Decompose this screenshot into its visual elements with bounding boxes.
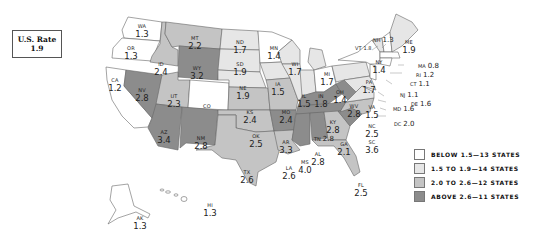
legend-item-high: ABOVE 2.6—11 STATES [414, 189, 520, 203]
label-ks: KS2.4 [243, 110, 257, 125]
us-rate-title: U.S. Rate [13, 35, 61, 44]
label-co: CO [203, 104, 211, 110]
label-al: AL2.8 [311, 152, 325, 167]
label-wy: WY3.2 [190, 66, 204, 81]
label-va: VA1.5 [365, 105, 379, 120]
legend-swatch [414, 149, 425, 160]
label-wa: WA1.3 [135, 24, 149, 39]
legend-swatch [414, 191, 425, 202]
label-la: LA2.6 [282, 166, 296, 181]
label-nm: NM2.8 [194, 136, 208, 151]
label-nd: ND1.7 [233, 40, 247, 55]
label-hi: HI1.3 [203, 203, 217, 218]
label-mt: MT2.2 [188, 36, 202, 51]
label-nh: NH1.3 [373, 37, 394, 44]
label-ok: OK2.5 [249, 134, 263, 149]
label-il: IL1.5 [297, 94, 311, 109]
label-ky: KY2.8 [326, 120, 340, 135]
label-wv: WV2.8 [347, 104, 361, 119]
label-ut: UT2.3 [167, 94, 181, 109]
legend-swatch [414, 163, 425, 174]
label-in: IN1.8 [314, 94, 328, 109]
label-tn: TN2.8 [314, 136, 334, 143]
legend-item-low: 1.5 TO 1.9—14 STATES [414, 161, 520, 175]
label-ak: AK1.3 [133, 216, 147, 231]
legend-item-below: BELOW 1.5—13 STATES [414, 147, 520, 161]
label-ma: MA0.8 [418, 63, 439, 70]
legend-swatch [414, 177, 425, 188]
label-me: ME1.9 [402, 40, 416, 55]
label-or: OR1.3 [124, 46, 138, 61]
label-ms: MS4.0 [298, 160, 312, 175]
label-nc: NC2.5 [365, 124, 379, 139]
label-wi: WI1.7 [288, 62, 302, 77]
label-md: MD1.6 [393, 106, 414, 113]
label-dc: DC2.0 [394, 121, 414, 128]
us-rate-value: 1.9 [13, 44, 61, 53]
label-nj: NJ1.1 [400, 92, 418, 99]
label-id: ID2.4 [154, 62, 168, 77]
state-mi[interactable] [308, 48, 326, 70]
label-tx: TX2.6 [240, 170, 254, 185]
label-sd: SD1.9 [233, 62, 247, 77]
label-ny: NY1.4 [372, 60, 386, 75]
state-hi[interactable] [160, 189, 187, 202]
label-mn: MN1.4 [267, 46, 281, 61]
label-ga: GA2.1 [337, 142, 351, 157]
legend: BELOW 1.5—13 STATES 1.5 TO 1.9—14 STATES… [414, 147, 520, 203]
label-pa: PA1.7 [362, 80, 376, 95]
label-nv: NV2.8 [135, 88, 149, 103]
label-ri: RI1.2 [416, 72, 434, 79]
label-ia: IA1.5 [271, 82, 285, 97]
label-az: AZ3.4 [157, 130, 171, 145]
label-mi: MI1.7 [320, 72, 334, 87]
label-sc: SC3.6 [365, 140, 379, 155]
label-ct: CT1.1 [410, 81, 430, 88]
label-mo: MO2.4 [279, 110, 293, 125]
state-ma[interactable] [380, 52, 400, 58]
label-vt: VT1.8 [355, 46, 371, 51]
label-ar: AR3.3 [279, 140, 293, 155]
legend-item-mid: 2.0 TO 2.6—12 STATES [414, 175, 520, 189]
label-oh: OH1.4 [333, 90, 347, 105]
label-ne: NE1.9 [236, 86, 250, 101]
label-fl: FL2.5 [354, 183, 368, 198]
label-ca: CA1.2 [108, 78, 122, 93]
us-rate-box: U.S. Rate 1.9 [12, 30, 62, 58]
